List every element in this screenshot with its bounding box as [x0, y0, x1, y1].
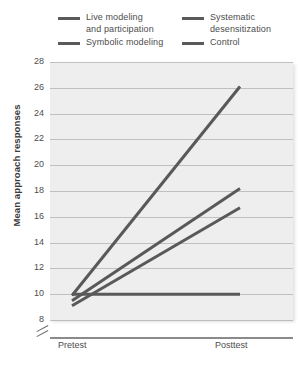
- y-axis-tick-26: 26: [22, 82, 44, 92]
- legend-label-symbolic-modeling: Symbolic modeling: [86, 37, 163, 49]
- y-axis-tick-28: 28: [22, 56, 44, 66]
- x-axis-baseline: [50, 337, 293, 339]
- x-axis-tick-pretest: Pretest: [58, 340, 87, 350]
- legend-swatch-live-modeling-icon: [58, 17, 80, 20]
- legend-swatch-symbolic-modeling-icon: [58, 42, 80, 45]
- legend-label-systematic-desensitization: Systematic desensitization: [210, 12, 271, 35]
- gridline-8: [50, 320, 293, 321]
- y-axis-tick-22: 22: [22, 133, 44, 143]
- y-axis-title: Mean approach responses: [11, 76, 22, 256]
- series-lines: [50, 62, 293, 320]
- legend-item-control[interactable]: Control: [182, 37, 240, 49]
- legend-swatch-control-icon: [182, 42, 204, 45]
- series-line-1: [72, 188, 240, 300]
- y-axis-tick-8: 8: [22, 314, 44, 324]
- y-axis-tick-16: 16: [22, 211, 44, 221]
- legend-item-live-modeling[interactable]: Live modeling and participation: [58, 12, 154, 35]
- x-axis-tick-posttest: Posttest: [215, 340, 248, 350]
- series-line-0: [72, 87, 240, 296]
- series-line-2: [72, 208, 240, 306]
- line-chart: Live modeling and participation Systemat…: [0, 0, 299, 366]
- plot-area: [50, 62, 293, 320]
- legend-item-symbolic-modeling[interactable]: Symbolic modeling: [58, 37, 163, 49]
- y-axis-tick-24: 24: [22, 108, 44, 118]
- y-axis-tick-14: 14: [22, 237, 44, 247]
- legend-swatch-systematic-desensitization-icon: [182, 17, 204, 20]
- legend-label-live-modeling: Live modeling and participation: [86, 12, 154, 35]
- legend-label-control: Control: [210, 37, 240, 49]
- y-axis-tick-20: 20: [22, 159, 44, 169]
- y-axis-tick-18: 18: [22, 185, 44, 195]
- y-axis-tick-12: 12: [22, 262, 44, 272]
- chart-legend: Live modeling and participation Systemat…: [0, 0, 299, 58]
- y-axis-tick-10: 10: [22, 288, 44, 298]
- legend-item-systematic-desensitization[interactable]: Systematic desensitization: [182, 12, 271, 35]
